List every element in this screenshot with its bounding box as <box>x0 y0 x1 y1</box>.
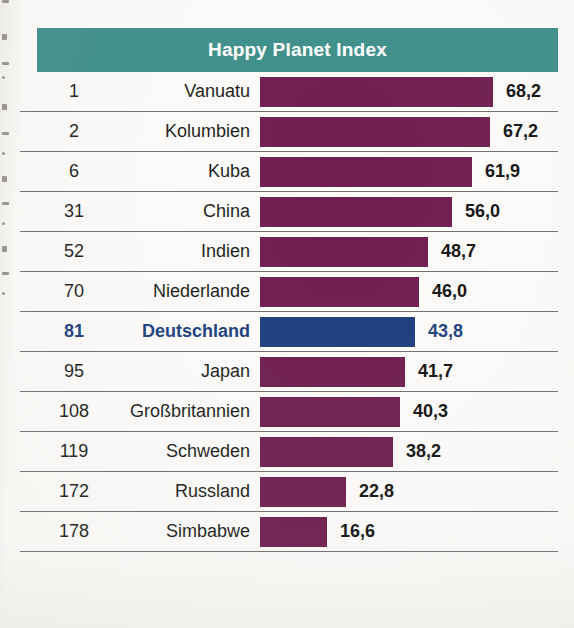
value-label: 61,9 <box>485 161 520 182</box>
table-row: 1Vanuatu68,2 <box>20 72 558 111</box>
value-label: 68,2 <box>506 81 541 102</box>
value-bar <box>260 357 405 387</box>
table-header-bar: Happy Planet Index <box>37 28 558 72</box>
edge-fragment <box>2 246 7 252</box>
value-bar <box>260 397 400 427</box>
edge-fragment <box>2 202 9 205</box>
table-row: 6Kuba61,9 <box>20 152 558 191</box>
edge-fragment <box>2 62 9 65</box>
rank-cell: 119 <box>20 441 128 462</box>
table-row: 178Simbabwe16,6 <box>20 512 558 551</box>
happy-planet-index-table: Happy Planet Index 1Vanuatu68,22Kolumbie… <box>20 28 558 552</box>
rank-cell: 108 <box>20 401 128 422</box>
rank-cell: 172 <box>20 481 128 502</box>
value-label: 43,8 <box>428 321 463 342</box>
country-name-cell: Kolumbien <box>128 121 260 142</box>
edge-fragment <box>2 34 7 40</box>
bar-cell: 41,7 <box>260 352 558 391</box>
country-name-cell: Russland <box>128 481 260 502</box>
country-name-cell: Simbabwe <box>128 521 260 542</box>
table-row: 119Schweden38,2 <box>20 432 558 471</box>
country-name-cell: Indien <box>128 241 260 262</box>
table-row: 95Japan41,7 <box>20 352 558 391</box>
value-label: 56,0 <box>465 201 500 222</box>
edge-fragment <box>2 152 5 155</box>
edge-fragment <box>2 222 5 225</box>
table-body: 1Vanuatu68,22Kolumbien67,26Kuba61,931Chi… <box>20 72 558 551</box>
rank-cell: 2 <box>20 121 128 142</box>
table-bottom-rule <box>20 551 558 552</box>
edge-fragment <box>2 292 5 295</box>
bar-cell: 40,3 <box>260 392 558 431</box>
bar-cell: 46,0 <box>260 272 558 311</box>
edge-fragment <box>2 272 9 275</box>
page-title: Happy Planet Index <box>208 39 387 61</box>
bar-cell: 22,8 <box>260 472 558 511</box>
table-row: 31China56,0 <box>20 192 558 231</box>
country-name-cell: Deutschland <box>128 321 260 342</box>
value-bar <box>260 477 346 507</box>
bar-cell: 16,6 <box>260 512 558 551</box>
bar-cell: 48,7 <box>260 232 558 271</box>
value-label: 22,8 <box>359 481 394 502</box>
rank-cell: 70 <box>20 281 128 302</box>
value-bar <box>260 197 452 227</box>
value-bar <box>260 517 327 547</box>
table-row: 108Großbritannien40,3 <box>20 392 558 431</box>
rank-cell: 52 <box>20 241 128 262</box>
value-label: 41,7 <box>418 361 453 382</box>
country-name-cell: Japan <box>128 361 260 382</box>
rank-cell: 31 <box>20 201 128 222</box>
table-row: 70Niederlande46,0 <box>20 272 558 311</box>
bar-cell: 38,2 <box>260 432 558 471</box>
value-label: 48,7 <box>441 241 476 262</box>
country-name-cell: Großbritannien <box>128 401 260 422</box>
country-name-cell: Niederlande <box>128 281 260 302</box>
country-name-cell: China <box>128 201 260 222</box>
value-bar <box>260 77 493 107</box>
value-label: 46,0 <box>432 281 467 302</box>
bar-cell: 61,9 <box>260 152 558 191</box>
value-label: 38,2 <box>406 441 441 462</box>
value-label: 40,3 <box>413 401 448 422</box>
rank-cell: 6 <box>20 161 128 182</box>
bar-cell: 56,0 <box>260 192 558 231</box>
edge-fragment <box>2 176 7 182</box>
country-name-cell: Schweden <box>128 441 260 462</box>
value-label: 16,6 <box>340 521 375 542</box>
table-row: 2Kolumbien67,2 <box>20 112 558 151</box>
chart-page: Happy Planet Index 1Vanuatu68,22Kolumbie… <box>0 0 574 628</box>
table-row: 81Deutschland43,8 <box>20 312 558 351</box>
rank-cell: 95 <box>20 361 128 382</box>
edge-fragment <box>2 132 9 135</box>
rank-cell: 178 <box>20 521 128 542</box>
bar-cell: 68,2 <box>260 72 558 111</box>
value-label: 67,2 <box>503 121 538 142</box>
value-bar <box>260 237 428 267</box>
value-bar <box>260 277 419 307</box>
value-bar <box>260 117 490 147</box>
rank-cell: 81 <box>20 321 128 342</box>
value-bar <box>260 437 393 467</box>
bar-cell: 43,8 <box>260 312 558 351</box>
table-row: 52Indien48,7 <box>20 232 558 271</box>
edge-fragment <box>2 104 7 110</box>
country-name-cell: Kuba <box>128 161 260 182</box>
table-row: 172Russland22,8 <box>20 472 558 511</box>
edge-fragment <box>2 76 5 79</box>
rank-cell: 1 <box>20 81 128 102</box>
value-bar <box>260 157 472 187</box>
value-bar <box>260 317 415 347</box>
bar-cell: 67,2 <box>260 112 558 151</box>
page-edge-bleed <box>0 0 16 628</box>
country-name-cell: Vanuatu <box>128 81 260 102</box>
